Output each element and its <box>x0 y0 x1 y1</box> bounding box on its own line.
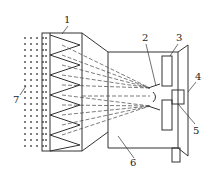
label-2: 2 <box>142 33 148 43</box>
label-1: 1 <box>64 15 70 25</box>
label-4: 4 <box>195 72 201 82</box>
label-6: 6 <box>130 158 136 168</box>
label-3: 3 <box>176 33 182 43</box>
label-5: 5 <box>193 126 199 136</box>
dot-field <box>24 37 47 147</box>
zigzag-lens <box>50 35 80 151</box>
diagram-canvas <box>0 0 213 181</box>
label-7: 7 <box>13 95 19 105</box>
